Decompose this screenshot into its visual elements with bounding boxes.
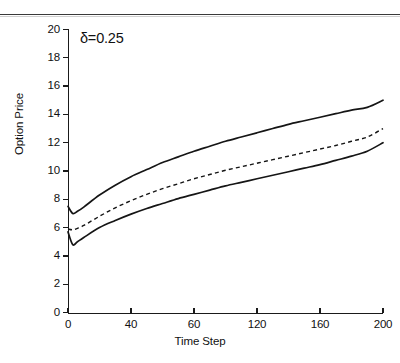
curve-upper-bound	[68, 100, 383, 213]
curve-group	[0, 0, 400, 363]
curve-mean-estimate	[68, 129, 383, 230]
figure: 02468101214161820 04060120160200 Option …	[0, 0, 400, 363]
curve-lower-bound	[68, 143, 383, 245]
